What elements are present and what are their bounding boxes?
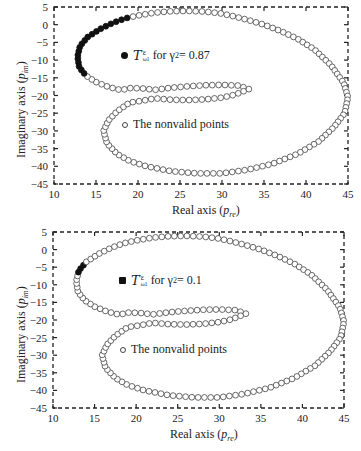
nonvalid-point	[197, 83, 203, 89]
nonvalid-point	[138, 310, 144, 316]
nonvalid-point	[226, 393, 232, 399]
y-tick-label: −15	[31, 72, 49, 84]
nonvalid-point	[110, 85, 116, 91]
y-tick-label: −10	[30, 279, 48, 291]
nonvalid-point	[161, 9, 167, 15]
nonvalid-point	[178, 233, 184, 239]
nonvalid-point	[136, 98, 142, 104]
nonvalid-point	[226, 307, 232, 313]
nonvalid-point	[195, 395, 201, 401]
y-tick-label: −35	[31, 143, 49, 155]
nonvalid-point	[264, 23, 270, 29]
nonvalid-point	[183, 394, 189, 400]
open-circle-icon	[122, 122, 128, 128]
nonvalid-point	[259, 21, 265, 27]
nonvalid-point	[215, 236, 221, 242]
nonvalid-point	[169, 309, 175, 315]
nonvalid-point	[159, 86, 165, 92]
nonvalid-point	[155, 10, 161, 16]
nonvalid-point	[248, 166, 254, 172]
nonvalid-point	[208, 395, 214, 401]
nonvalid-point	[270, 25, 276, 31]
nonvalid-point	[142, 97, 148, 103]
nonvalid-point	[233, 392, 239, 398]
nonvalid-point	[128, 324, 134, 330]
y-tick-label: 5	[43, 1, 49, 13]
nonvalid-point	[114, 311, 120, 317]
nonvalid-point	[242, 167, 248, 173]
nonvalid-point	[152, 320, 158, 326]
y-tick-label: −15	[30, 296, 48, 308]
nonvalid-point	[262, 386, 268, 392]
nonvalid-point	[229, 169, 235, 175]
nonvalid-point	[277, 158, 283, 164]
nonvalid-point	[239, 241, 245, 247]
nonvalid-point	[223, 170, 229, 176]
nonvalid-point	[189, 394, 195, 400]
nonvalid-point	[175, 309, 181, 315]
nonvalid-point	[180, 97, 186, 103]
nonvalid-point	[146, 321, 152, 327]
nonvalid-point	[210, 170, 216, 176]
nonvalid-point	[242, 16, 248, 22]
nonvalid-point	[148, 96, 154, 102]
nonvalid-point	[222, 82, 228, 88]
nonvalid-point	[287, 154, 293, 160]
x-tick-label: 25	[172, 412, 184, 424]
y-tick-label: 0	[42, 244, 48, 256]
y-tick-label: −5	[35, 261, 47, 273]
nonvalid-point	[203, 321, 209, 327]
nonvalid-point	[186, 8, 192, 14]
open-circle-icon	[120, 347, 126, 353]
nonvalid-point	[146, 388, 152, 394]
nonvalid-point	[244, 243, 250, 249]
chart-bottom: 101520253035404550−5−10−15−20−25−30−35−4…	[0, 225, 361, 450]
y-tick-label: −45	[30, 402, 48, 414]
y-tick-label: −5	[36, 36, 48, 48]
nonvalid-point	[282, 156, 288, 162]
nonvalid-point	[142, 163, 148, 169]
nonvalid-point	[188, 308, 194, 314]
nonvalid-point	[198, 170, 204, 176]
nonvalid-point	[218, 11, 224, 17]
nonvalid-point	[179, 169, 185, 175]
nonvalid-point	[196, 321, 202, 327]
x-tick-label: 40	[297, 412, 309, 424]
x-tick-label: 20	[133, 188, 145, 200]
nonvalid-point	[241, 88, 247, 94]
legend-open: The nonvalid points	[122, 117, 229, 132]
plot-area-bottom: 101520253035404550−5−10−15−20−25−30−35−4…	[0, 225, 361, 451]
valid-point	[119, 17, 125, 23]
nonvalid-point	[261, 248, 267, 254]
nonvalid-point	[219, 307, 225, 313]
nonvalid-point	[224, 94, 230, 100]
nonvalid-point	[207, 307, 213, 313]
nonvalid-point	[159, 234, 165, 240]
nonvalid-point	[238, 313, 244, 319]
legend-filled: T εω1 for γ2 = 0.87	[121, 48, 210, 63]
nonvalid-point	[164, 392, 170, 398]
y-tick-label: −45	[31, 178, 49, 190]
nonvalid-point	[194, 307, 200, 313]
nonvalid-point	[293, 152, 299, 158]
nonvalid-point	[209, 235, 215, 241]
nonvalid-point	[126, 310, 132, 316]
nonvalid-point	[184, 233, 190, 239]
nonvalid-point	[250, 244, 256, 250]
y-tick-label: −40	[30, 384, 48, 396]
nonvalid-point	[171, 321, 177, 327]
y-axis-label: Imaginary axis (pim)	[14, 61, 30, 158]
nonvalid-point	[152, 390, 158, 396]
x-tick-label: 15	[91, 188, 103, 200]
nonvalid-point	[216, 82, 222, 88]
filled-circle-icon	[119, 277, 126, 284]
nonvalid-point	[203, 234, 209, 240]
y-tick-label: −35	[30, 367, 48, 379]
nonvalid-point	[209, 320, 215, 326]
nonvalid-point	[232, 307, 238, 313]
nonvalid-point	[184, 84, 190, 90]
nonvalid-point	[127, 85, 133, 91]
legend-filled: T εω1 for γ2 = 0.1	[119, 273, 202, 288]
nonvalid-point	[193, 97, 199, 103]
nonvalid-point	[161, 96, 167, 102]
